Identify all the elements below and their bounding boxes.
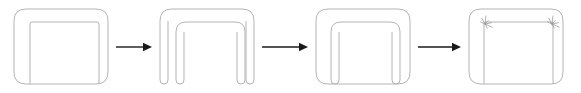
arrow-stage1-to-stage2 [116,43,152,51]
arrow-stage2-to-stage3-head [299,43,308,51]
arrow-stage2-to-stage3 [262,43,308,51]
stage-2-outer-frame [160,9,254,84]
stage-1-closed-frame-with-inner-panel [14,9,108,84]
arrow-stage3-to-stage4-head [452,43,461,51]
stage-3-outer-frame [316,9,410,84]
arrow-stage3-to-stage4 [418,43,461,51]
stage-1-inner-panel [30,22,99,84]
process-sequence-diagram [0,0,581,93]
arrow-stage1-to-stage2-head [143,43,152,51]
diagram-canvas [0,0,581,93]
stage-2-inner-panel [176,22,245,84]
stage-3-frame-with-inner-arch [316,9,410,84]
stage-1-outer-frame [14,9,108,84]
stage-2-open-arch-frame [160,9,254,84]
stage-3-inner-panel [331,22,400,84]
stage-4-inner-panel [484,22,553,84]
stage-4-fastened-frame-with-corner-marks [469,9,563,84]
